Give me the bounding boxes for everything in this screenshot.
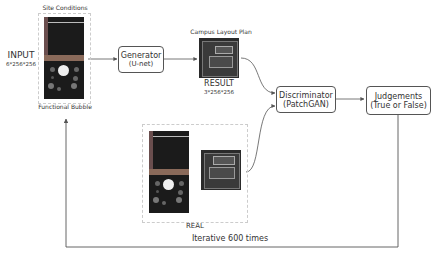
input-title: INPUT <box>5 50 37 60</box>
functional-bubble-label: Functional Bubble <box>33 103 97 110</box>
result-building <box>209 56 233 68</box>
bubble <box>74 67 79 72</box>
result-building <box>215 46 233 54</box>
real-label: REAL <box>180 222 210 230</box>
input-image <box>44 17 84 99</box>
campus-layout-plan-label: Campus Layout Plan <box>186 28 256 35</box>
generator-subtitle: (U-net) <box>129 60 154 69</box>
bubble <box>50 67 55 72</box>
generator-title: Generator <box>121 51 162 60</box>
bubble <box>155 181 160 186</box>
bubble <box>176 197 182 203</box>
result-dims: 3*256*256 <box>195 89 243 95</box>
input-dims: 6*256*256 <box>3 61 39 67</box>
bubble <box>57 87 61 91</box>
bubble <box>71 83 77 89</box>
site-band <box>149 169 189 175</box>
bubble <box>48 83 54 89</box>
bubble <box>162 201 166 205</box>
bubble <box>156 190 159 193</box>
result-image <box>199 38 239 78</box>
discriminator-title: Discriminator <box>279 91 333 100</box>
real-building <box>213 156 235 165</box>
real-input-image <box>149 131 189 213</box>
judgements-subtitle: (True or False) <box>370 101 427 110</box>
bubble <box>73 76 78 81</box>
discriminator-node: Discriminator (PatchGAN) <box>276 86 336 113</box>
bubble <box>153 197 159 203</box>
discriminator-subtitle: (PatchGAN) <box>283 100 329 109</box>
iterative-label: Iterative 600 times <box>180 234 280 243</box>
site-conditions-label: Site Conditions <box>33 4 97 11</box>
site-band <box>44 55 84 61</box>
judgements-title: Judgements <box>375 92 423 101</box>
site-line <box>153 136 189 137</box>
generator-node: Generator (U-net) <box>118 46 164 73</box>
bubble <box>179 181 184 186</box>
bubble-main <box>58 65 69 76</box>
real-image-frame <box>142 124 248 223</box>
result-title: RESULT <box>199 79 239 88</box>
bubble <box>178 190 183 195</box>
judgements-node: Judgements (True or False) <box>366 86 431 115</box>
bubble-main <box>163 179 174 190</box>
input-image-frame <box>38 13 91 104</box>
bubble <box>51 76 54 79</box>
site-line <box>48 22 84 23</box>
real-plan-image <box>201 150 241 190</box>
real-building <box>209 167 235 179</box>
